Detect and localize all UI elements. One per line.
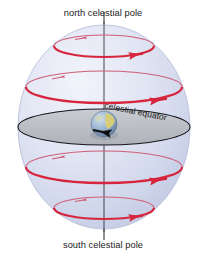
diagram-canvas: north celestial pole celestial equator s… bbox=[0, 0, 206, 254]
earth-globe bbox=[90, 111, 118, 140]
north-celestial-pole-label: north celestial pole bbox=[64, 8, 143, 18]
celestial-sphere-diagram: north celestial pole celestial equator s… bbox=[0, 0, 206, 254]
south-celestial-pole-label: south celestial pole bbox=[63, 240, 143, 250]
